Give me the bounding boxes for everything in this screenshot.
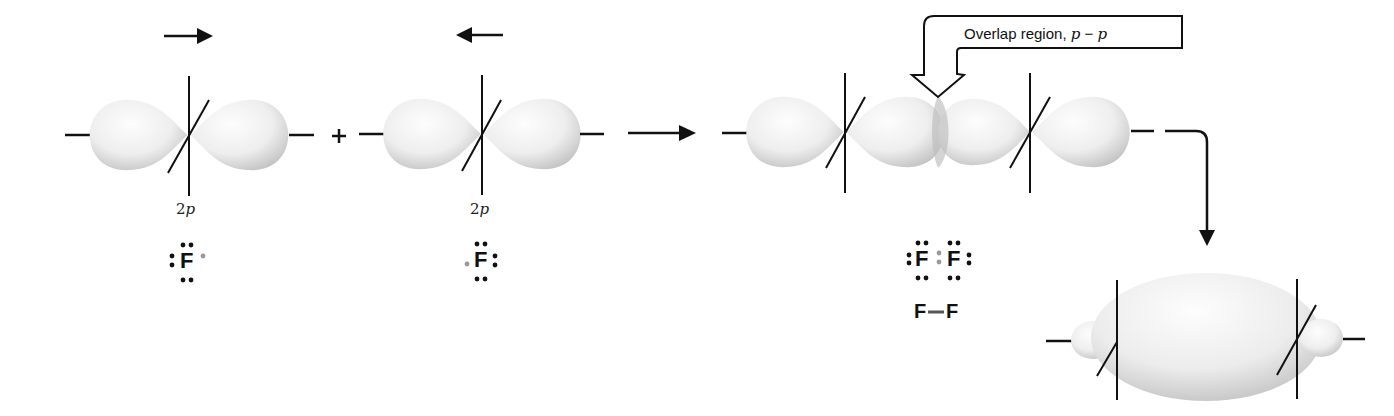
arrow-left-icon bbox=[456, 27, 503, 43]
p-orbital-lobe-right bbox=[191, 100, 289, 170]
p-orbital-lobe-right bbox=[483, 99, 581, 169]
lewis-symbol-atom-1: F bbox=[180, 250, 193, 272]
callout-label: Overlap region, p − p bbox=[964, 25, 1107, 43]
lobe-2b bbox=[1032, 97, 1130, 167]
p-orbital-lobe-left bbox=[383, 99, 481, 169]
lobe-1a bbox=[746, 97, 844, 167]
arrow-right-icon bbox=[164, 28, 213, 44]
lewis-dots bbox=[170, 241, 972, 283]
orbital-overlap-diagram: 2p 2p bbox=[0, 0, 1394, 416]
orbital-label: 2p bbox=[176, 200, 196, 218]
arrowhead-down-icon bbox=[1199, 230, 1215, 246]
lewis-symbol-molecule-right: F bbox=[947, 248, 960, 270]
reaction-arrow-icon bbox=[628, 125, 696, 141]
large-bonding-lobe bbox=[1091, 273, 1321, 401]
bent-arrow-down-icon bbox=[1165, 131, 1207, 233]
atom-2-orbital: 2p bbox=[359, 27, 604, 218]
bond-formula-left: F bbox=[914, 300, 926, 323]
overlap-callout: Overlap region, p − p bbox=[912, 16, 1182, 97]
lewis-symbol-atom-2: F bbox=[474, 249, 487, 271]
overlapping-orbitals bbox=[722, 73, 1215, 246]
atom-1-orbital: 2p bbox=[65, 28, 314, 218]
bond-formula-right: F bbox=[946, 300, 958, 323]
lobe-1b bbox=[846, 97, 944, 167]
plus-sign bbox=[332, 129, 346, 143]
sigma-bond-orbital bbox=[1046, 273, 1365, 401]
overlap-region-shading bbox=[932, 96, 949, 168]
p-orbital-lobe-left bbox=[90, 100, 188, 170]
orbital-label: 2p bbox=[470, 200, 490, 218]
lewis-symbol-molecule-left: F bbox=[915, 248, 928, 270]
